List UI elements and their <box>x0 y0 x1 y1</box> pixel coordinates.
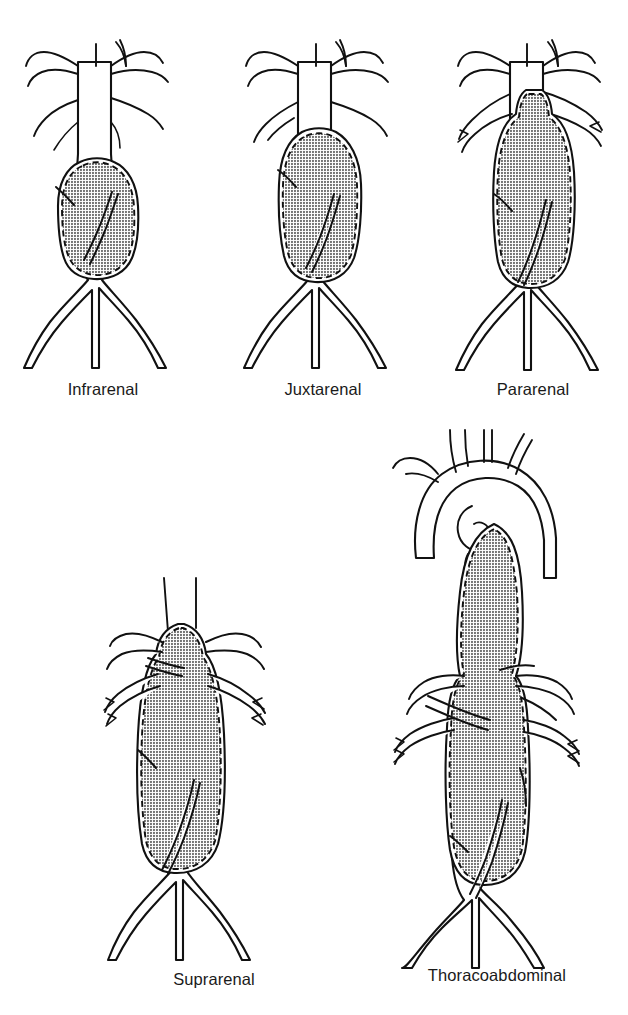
aneurysm-sac-juxtarenal <box>279 128 362 282</box>
panel-label-juxtarenal: Juxtarenal <box>228 380 418 399</box>
panel-pararenal: Pararenal <box>438 22 628 402</box>
panel-label-pararenal: Pararenal <box>438 380 628 399</box>
panel-infrarenal: Infrarenal <box>8 22 198 402</box>
panel-label-suprarenal: Suprarenal <box>102 970 326 989</box>
panel-thoracoabdominal: Thoracoabdominal <box>372 428 622 1003</box>
panel-suprarenal: Suprarenal <box>102 562 326 1002</box>
aneurysm-sac-suprarenal <box>137 624 225 873</box>
panel-label-thoracoabdominal: Thoracoabdominal <box>372 966 622 985</box>
aneurysm-sac-infrarenal <box>58 158 138 279</box>
aneurysm-classification-figure: Infrarenal <box>0 0 628 1015</box>
panel-label-infrarenal: Infrarenal <box>8 380 198 399</box>
panel-juxtarenal: Juxtarenal <box>228 22 418 402</box>
aneurysm-sac-thoracoabdominal <box>446 524 530 885</box>
